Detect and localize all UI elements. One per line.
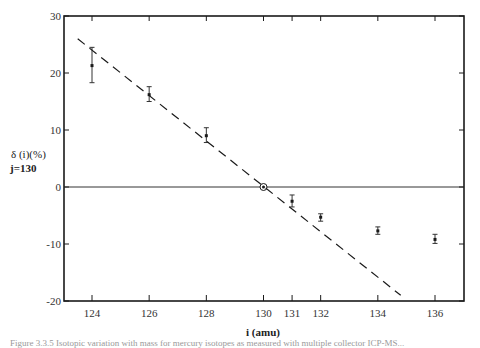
x-tick-label: 134	[370, 307, 387, 319]
data-point	[291, 200, 294, 203]
data-point	[376, 229, 379, 232]
figure-caption: Figure 3.3.5 Isotopic variation with mas…	[10, 338, 480, 348]
data-point	[434, 238, 437, 241]
y-tick-label: 0	[56, 181, 62, 193]
x-tick-label: 132	[312, 307, 329, 319]
y-tick-label: -20	[46, 295, 61, 307]
y-tick-label: -10	[46, 238, 61, 250]
data-point	[205, 134, 208, 137]
x-tick-label: 130	[255, 307, 272, 319]
y-tick-label: 30	[50, 10, 62, 22]
x-tick-label: 136	[427, 307, 444, 319]
y-axis-title: δ (i)(%)	[11, 148, 46, 161]
x-tick-label: 126	[141, 307, 158, 319]
data-point	[319, 216, 322, 219]
y-tick-label: 20	[50, 67, 62, 79]
plot-frame	[64, 16, 464, 301]
x-tick-label: 131	[284, 307, 301, 319]
y-axis-subtitle: j=130	[9, 162, 37, 174]
y-tick-label: 10	[50, 124, 62, 136]
chart-canvas: -20-100102030124126128130131132134136i (…	[0, 0, 480, 348]
x-tick-label: 128	[198, 307, 215, 319]
data-point	[91, 64, 94, 67]
reference-point-dot	[262, 186, 265, 189]
x-tick-label: 124	[84, 307, 101, 319]
trend-line-dashed	[78, 39, 401, 296]
